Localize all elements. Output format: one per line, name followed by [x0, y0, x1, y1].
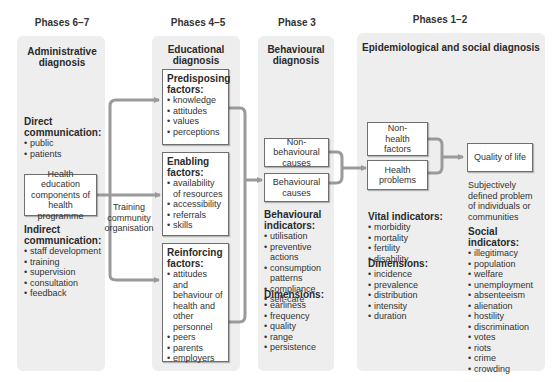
educational-title: Educational diagnosis — [155, 44, 237, 66]
list-item: crime — [468, 353, 548, 364]
list-item: attitudes and behaviour of health and ot… — [167, 269, 224, 332]
direct-communication: Direct communication: public patients — [24, 116, 104, 159]
reinforcing-list: attitudes and behaviour of health and ot… — [167, 269, 224, 364]
list-item: skills — [167, 220, 224, 231]
phase-heading-1-2: Phases 1–2 — [370, 14, 510, 25]
list-item: welfare — [468, 269, 548, 280]
epidemiological-title: Epidemiological and social diagnosis — [360, 42, 542, 53]
non-behavioural-causes-box: Non-behavioural causes — [264, 138, 329, 167]
list-item: fertility — [368, 243, 453, 254]
list-item: population — [468, 259, 548, 270]
behavioural-dimensions-list: earliness frequency quality range persis… — [264, 300, 334, 353]
predisposing-list: knowledge attitudes values perceptions — [167, 95, 224, 137]
list-item: supervision — [24, 267, 114, 278]
social-indicators-heading: Social indicators: — [468, 226, 548, 248]
list-item: mortality — [368, 233, 453, 244]
list-item: perceptions — [167, 127, 224, 138]
list-item: values — [167, 116, 224, 127]
behavioural-indicators-heading: Behavioural indicators: — [264, 209, 324, 231]
list-item: intensity — [368, 301, 453, 312]
list-item: riots — [468, 343, 548, 354]
enabling-heading: Enabling factors: — [167, 156, 224, 178]
list-item: accessibility — [167, 199, 224, 210]
list-item: unemployment — [468, 280, 548, 291]
behavioural-dimensions: Dimensions: earliness frequency quality … — [264, 289, 334, 353]
health-education-components-box: Health education components of health pr… — [24, 174, 97, 216]
phase-heading-3: Phase 3 — [262, 17, 332, 28]
social-indicators-list: illegitimacy population welfare unemploy… — [468, 248, 548, 374]
behavioural-title: Behavioural diagnosis — [262, 44, 330, 66]
quality-of-life-box: Quality of life — [467, 143, 533, 172]
direct-communication-list: public patients — [24, 138, 104, 159]
indirect-communication-heading: Indirect communication: — [24, 224, 94, 246]
reinforcing-factors-box: Reinforcing factors: attitudes and behav… — [162, 243, 229, 362]
list-item: staff development — [24, 246, 114, 257]
list-item: illegitimacy — [468, 248, 548, 259]
list-item: duration — [368, 311, 453, 322]
list-item: consultation — [24, 278, 114, 289]
list-item: morbidity — [368, 222, 453, 233]
list-item: utilisation — [264, 231, 339, 242]
list-item: votes — [468, 332, 548, 343]
list-item: distribution — [368, 290, 453, 301]
list-item: absenteeism — [468, 290, 548, 301]
social-indicators: Social indicators: illegitimacy populati… — [468, 226, 548, 374]
list-item: availability of resources — [167, 178, 224, 199]
enabling-factors-box: Enabling factors: availability of resour… — [162, 152, 229, 236]
enabling-list: availability of resources accessibility … — [167, 178, 224, 231]
list-item: consumption patterns — [264, 263, 324, 284]
list-item: quality — [264, 321, 334, 332]
list-item: crowding — [468, 364, 548, 375]
list-item: referrals — [167, 210, 224, 221]
vital-indicators-heading: Vital indicators: — [368, 211, 453, 222]
training-community-label: Training community organisation — [104, 202, 154, 234]
list-item: public — [24, 138, 104, 149]
phase-heading-4-5: Phases 4–5 — [148, 17, 248, 28]
predisposing-heading: Predisposing factors: — [167, 73, 224, 95]
list-item: employers — [167, 353, 224, 364]
reinforcing-heading: Reinforcing factors: — [167, 247, 224, 269]
list-item: persistence — [264, 342, 334, 353]
administrative-title: Administrative diagnosis — [22, 46, 102, 68]
indirect-communication: Indirect communication: staff developmen… — [24, 224, 114, 299]
list-item: peers — [167, 332, 224, 343]
direct-communication-heading: Direct communication: — [24, 116, 104, 138]
behavioural-dimensions-heading: Dimensions: — [264, 289, 334, 300]
behavioural-causes-box: Behavioural causes — [264, 173, 329, 202]
list-item: feedback — [24, 288, 114, 299]
list-item: knowledge — [167, 95, 224, 106]
list-item: incidence — [368, 269, 453, 280]
phase-heading-6-7: Phases 6–7 — [12, 17, 112, 28]
list-item: parents — [167, 343, 224, 354]
list-item: preventive actions — [264, 242, 339, 263]
list-item: discrimination — [468, 322, 548, 333]
list-item: hostility — [468, 311, 548, 322]
non-health-factors-box: Non-health factors — [367, 122, 428, 156]
list-item: alienation — [468, 301, 548, 312]
list-item: range — [264, 332, 334, 343]
epidemiological-dimensions-list: incidence prevalence distribution intens… — [368, 269, 453, 322]
list-item: patients — [24, 149, 104, 160]
list-item: prevalence — [368, 280, 453, 291]
epidemiological-dimensions-heading: Dimensions: — [368, 258, 453, 269]
vital-indicators: Vital indicators: morbidity mortality fe… — [368, 211, 453, 264]
list-item: attitudes — [167, 106, 224, 117]
list-item: training — [24, 257, 114, 268]
list-item: frequency — [264, 311, 334, 322]
predisposing-factors-box: Predisposing factors: knowledge attitude… — [162, 69, 229, 145]
indirect-communication-list: staff development training supervision c… — [24, 246, 114, 299]
quality-of-life-description: Subjectively defined problem of individu… — [468, 180, 534, 222]
list-item: earliness — [264, 300, 334, 311]
epidemiological-dimensions: Dimensions: incidence prevalence distrib… — [368, 258, 453, 322]
health-problems-box: Health problems — [367, 160, 428, 190]
